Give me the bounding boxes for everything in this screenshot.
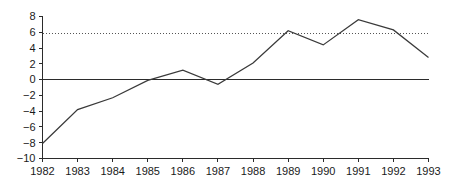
y-tick-label: −8 <box>23 137 36 149</box>
x-tick-label: 1984 <box>100 165 124 177</box>
x-tick-label: 1988 <box>241 165 265 177</box>
y-tick-label: −10 <box>17 152 36 164</box>
y-axis: 86420−2−4−6−8−10 <box>17 10 43 164</box>
x-tick-label: 1990 <box>311 165 335 177</box>
y-tick-label: 6 <box>29 26 35 38</box>
chart-canvas: 86420−2−4−6−8−10 19821983198419851986198… <box>0 0 453 185</box>
x-tick-label: 1993 <box>416 165 440 177</box>
x-tick-label: 1983 <box>65 165 89 177</box>
x-axis: 1982198319841985198619871988198919901991… <box>30 159 440 177</box>
data-series-group <box>43 20 429 144</box>
y-tick-label: −2 <box>23 89 36 101</box>
x-tick-group: 1982198319841985198619871988198919901991… <box>30 159 440 177</box>
x-tick-label: 1989 <box>276 165 300 177</box>
line-chart: 86420−2−4−6−8−10 19821983198419851986198… <box>0 0 453 185</box>
y-tick-label: −6 <box>23 121 36 133</box>
y-tick-label: 4 <box>29 42 35 54</box>
y-tick-label: 0 <box>29 73 35 85</box>
x-tick-label: 1986 <box>171 165 195 177</box>
x-tick-label: 1991 <box>346 165 370 177</box>
x-tick-label: 1985 <box>136 165 160 177</box>
y-tick-group: 86420−2−4−6−8−10 <box>17 10 43 164</box>
data-series-line <box>43 20 429 144</box>
x-tick-label: 1987 <box>206 165 230 177</box>
x-tick-label: 1982 <box>30 165 54 177</box>
x-tick-label: 1992 <box>381 165 405 177</box>
y-tick-label: 8 <box>29 10 35 22</box>
y-tick-label: −4 <box>23 105 36 117</box>
y-tick-label: 2 <box>29 58 35 70</box>
